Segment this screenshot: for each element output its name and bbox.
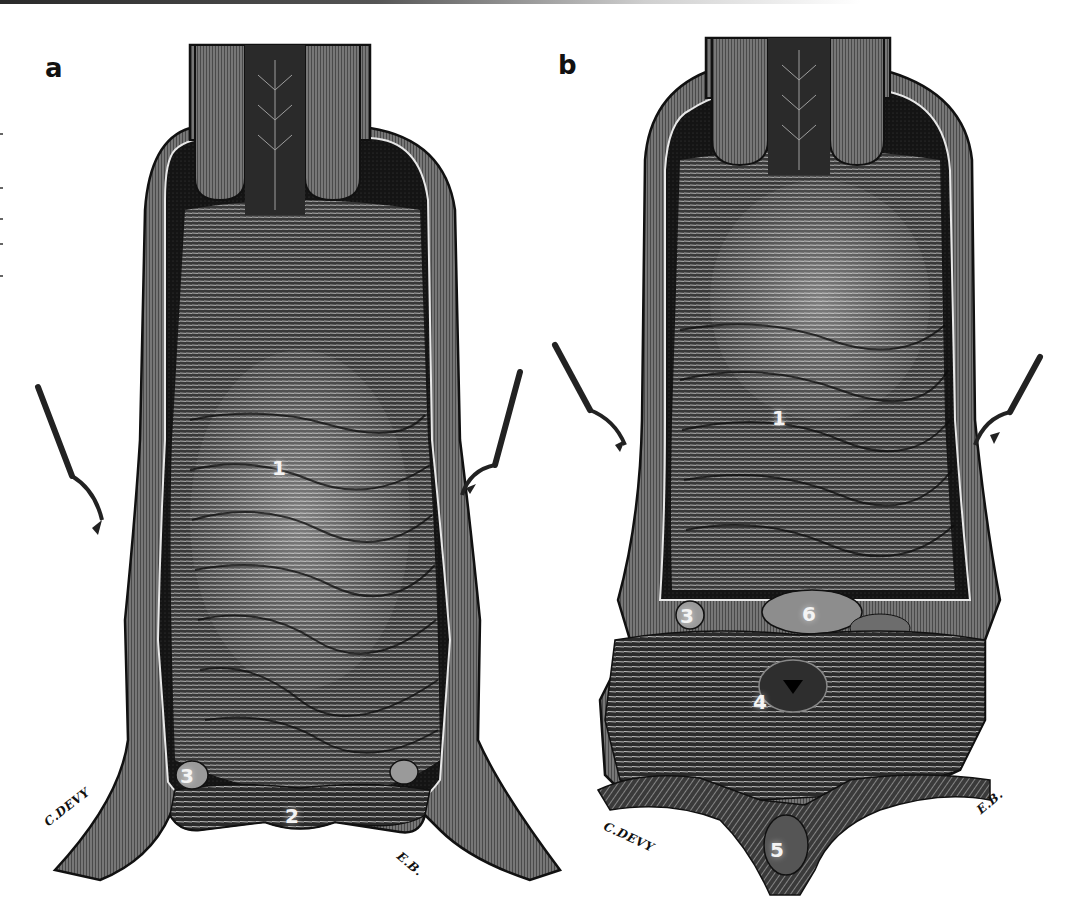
panel-b-illustration xyxy=(555,38,1040,895)
panel-a-illustration xyxy=(38,45,560,880)
anatomical-engraving xyxy=(0,0,1076,921)
callout-b-3: 3 xyxy=(680,606,694,626)
panel-label-a: a xyxy=(45,55,63,81)
callout-b-1: 1 xyxy=(772,408,786,428)
callout-b-4: 4 xyxy=(753,692,767,712)
callout-a-2: 2 xyxy=(285,806,299,826)
callout-b-5: 5 xyxy=(770,840,784,860)
hook-left-b xyxy=(555,345,625,452)
hook-right-a xyxy=(462,372,520,495)
callout-b-6: 6 xyxy=(802,604,816,624)
callout-a-3-left: 3 xyxy=(180,766,194,786)
panel-label-b: b xyxy=(558,52,577,78)
callout-a-1: 1 xyxy=(272,458,286,478)
hook-right-b xyxy=(975,357,1040,445)
hook-left-a xyxy=(38,387,102,535)
